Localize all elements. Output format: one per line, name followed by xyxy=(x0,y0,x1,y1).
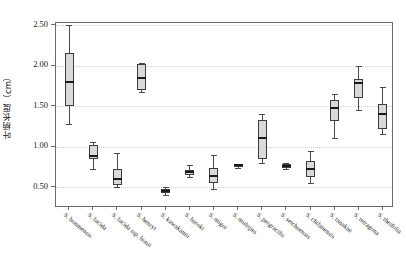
median-line xyxy=(65,81,74,83)
x-tick-mark xyxy=(237,207,238,210)
x-axis-label: S. multipes xyxy=(232,211,259,235)
x-tick-mark xyxy=(334,207,335,210)
x-tick-mark xyxy=(141,207,142,210)
cap-lower xyxy=(163,195,169,196)
cap-upper xyxy=(356,66,362,67)
cap-lower xyxy=(283,169,289,170)
x-tick-mark xyxy=(358,207,359,210)
y-axis-title: 叶柄长度（cm） xyxy=(3,72,19,139)
median-line xyxy=(354,82,363,84)
cap-upper xyxy=(308,151,314,152)
gridline-2.50 xyxy=(56,25,392,26)
cap-upper xyxy=(187,165,193,166)
median-line xyxy=(161,190,170,192)
cap-lower xyxy=(259,163,265,164)
whisker-upper xyxy=(213,155,214,169)
median-line xyxy=(282,165,291,167)
y-tick-label: 0.50 xyxy=(22,182,48,191)
whisker-upper xyxy=(69,25,70,53)
x-tick-mark xyxy=(165,207,166,210)
whisker-lower xyxy=(334,121,335,139)
gridline-0.50 xyxy=(56,187,392,188)
cap-lower xyxy=(187,177,193,178)
x-axis-label: S. baroki xyxy=(183,211,206,232)
y-tick-label: 2.00 xyxy=(22,60,48,69)
cap-upper xyxy=(380,87,386,88)
cap-lower xyxy=(380,134,386,135)
cap-lower xyxy=(356,110,362,111)
box-iqr xyxy=(330,100,339,121)
x-tick-mark xyxy=(261,207,262,210)
cap-upper xyxy=(66,25,72,26)
median-line xyxy=(234,164,243,166)
median-line xyxy=(306,168,315,170)
cap-lower xyxy=(235,168,241,169)
whisker-lower xyxy=(69,106,70,124)
median-line xyxy=(113,178,122,180)
x-tick-mark xyxy=(213,207,214,210)
cap-lower xyxy=(308,183,314,184)
cap-lower xyxy=(90,169,96,170)
x-axis-label: S. migoi xyxy=(207,211,229,231)
plot-area xyxy=(55,22,393,207)
whisker-upper xyxy=(382,87,383,104)
median-line xyxy=(258,137,267,139)
y-tick-label: 1.50 xyxy=(22,101,48,110)
chart-root: 叶柄长度（cm） 0.501.001.502.002.50 S. bonmens… xyxy=(0,0,406,274)
x-axis-label: S. henryi xyxy=(135,211,158,232)
median-line xyxy=(185,171,194,173)
cap-lower xyxy=(139,92,145,93)
cap-upper xyxy=(259,114,265,115)
cap-lower xyxy=(211,189,217,190)
cap-lower xyxy=(114,187,120,188)
cap-lower xyxy=(332,138,338,139)
box-iqr xyxy=(113,169,122,184)
median-line xyxy=(209,175,218,177)
median-line xyxy=(330,107,339,109)
cap-upper xyxy=(90,142,96,143)
x-tick-mark xyxy=(92,207,93,210)
cap-upper xyxy=(114,153,120,154)
cap-upper xyxy=(332,94,338,95)
gridline-1.50 xyxy=(56,106,392,107)
x-tick-mark xyxy=(68,207,69,210)
whisker-upper xyxy=(358,66,359,80)
x-axis-label: S. lucida xyxy=(87,211,109,231)
median-line xyxy=(89,155,98,157)
cap-upper xyxy=(163,187,169,188)
x-tick-mark xyxy=(285,207,286,210)
x-tick-mark xyxy=(382,207,383,210)
y-tick-label: 2.50 xyxy=(22,20,48,29)
whisker-lower xyxy=(358,98,359,110)
x-tick-mark xyxy=(189,207,190,210)
cap-lower xyxy=(66,124,72,125)
box-iqr xyxy=(65,53,74,106)
median-line xyxy=(378,113,387,115)
x-tick-mark xyxy=(116,207,117,210)
whisker-upper xyxy=(310,151,311,162)
box-iqr xyxy=(89,145,98,160)
box-iqr xyxy=(378,104,387,128)
y-tick-label: 1.00 xyxy=(22,141,48,150)
median-line xyxy=(137,77,146,79)
whisker-lower xyxy=(93,159,94,169)
x-tick-mark xyxy=(310,207,311,210)
whisker-upper xyxy=(117,153,118,169)
gridline-1.00 xyxy=(56,147,392,148)
gridline-2.00 xyxy=(56,66,392,67)
cap-upper xyxy=(211,155,217,156)
